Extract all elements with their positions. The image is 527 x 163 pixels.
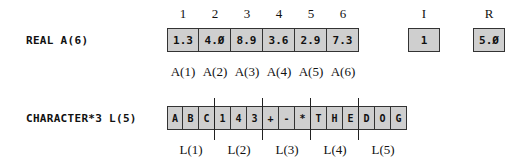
char-cell: O	[374, 106, 391, 130]
real-declaration: REAL A(6)	[26, 34, 88, 47]
element-label: A(1)	[165, 64, 201, 80]
char-cell: T	[310, 106, 327, 130]
array-cell: 1.3	[167, 28, 199, 52]
char-cell: C	[198, 106, 215, 130]
char-cell: 3	[246, 106, 263, 130]
array-index: 2	[199, 6, 231, 22]
element-label: L(1)	[171, 142, 211, 158]
array-index: 3	[231, 6, 263, 22]
char-cell: *	[294, 106, 311, 130]
element-label: A(2)	[197, 64, 233, 80]
char-cell: G	[390, 106, 407, 130]
char-cell: D	[358, 106, 375, 130]
char-cell: +	[262, 106, 279, 130]
char-cell: 1	[214, 106, 231, 130]
array-index: 4	[263, 6, 295, 22]
array-cell: 4.Ø	[198, 28, 231, 52]
array-index: 5	[295, 6, 327, 22]
character-declaration: CHARACTER*3 L(5)	[26, 112, 137, 125]
element-label: A(3)	[229, 64, 265, 80]
element-label: L(3)	[267, 142, 307, 158]
element-separator	[214, 98, 215, 140]
element-separator	[262, 98, 263, 140]
char-cell: A	[167, 106, 183, 130]
char-cell: H	[326, 106, 343, 130]
array-cell: 2.9	[294, 28, 327, 52]
array-cell: 8.9	[230, 28, 263, 52]
scalar-name: I	[408, 6, 440, 22]
scalar-cell: 5.Ø	[473, 28, 505, 52]
array-cell: 3.6	[262, 28, 295, 52]
array-cell: 7.3	[326, 28, 359, 52]
scalar-name: R	[473, 6, 505, 22]
element-label: A(5)	[293, 64, 329, 80]
char-cell: 4	[230, 106, 247, 130]
scalar-cell: 1	[408, 28, 440, 52]
element-label: L(2)	[219, 142, 259, 158]
element-label: A(6)	[325, 64, 361, 80]
element-label: A(4)	[261, 64, 297, 80]
char-cell: -	[278, 106, 295, 130]
array-index: 1	[167, 6, 199, 22]
array-index: 6	[327, 6, 359, 22]
char-cell: E	[342, 106, 359, 130]
element-separator	[310, 98, 311, 140]
element-separator	[358, 98, 359, 140]
char-cell: B	[182, 106, 199, 130]
element-label: L(4)	[315, 142, 355, 158]
element-label: L(5)	[363, 142, 403, 158]
